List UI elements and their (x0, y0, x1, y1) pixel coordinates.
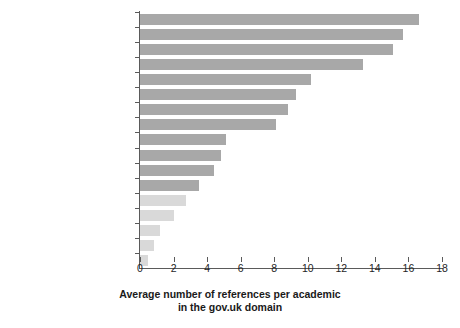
bar (140, 210, 174, 221)
bar (140, 14, 419, 25)
bar (140, 150, 221, 161)
y-axis-tick (135, 72, 140, 73)
bar-row: Sociology (140, 57, 442, 72)
bar-row: Comm & Media Studies (140, 102, 442, 117)
y-axis-tick (135, 148, 140, 149)
bar-row: Anthropology (140, 87, 442, 102)
y-axis-tick (135, 132, 140, 133)
y-axis-tick (135, 208, 140, 209)
bar (140, 119, 276, 130)
bar (140, 240, 154, 251)
bar (140, 104, 288, 115)
bar-row: Law (140, 148, 442, 163)
bar (140, 225, 160, 236)
bar-row: Social Policy (140, 12, 442, 27)
bar (140, 195, 186, 206)
bar (140, 165, 214, 176)
y-axis-tick (135, 223, 140, 224)
y-axis-tick (135, 178, 140, 179)
x-axis-title-line-2: in the gov.uk domain (0, 301, 460, 314)
bar-row: Philosophy (140, 178, 442, 193)
bar-row: History (140, 117, 442, 132)
bar-row: Medicine (140, 193, 442, 208)
plot-area: Social PolicyGeographyEconomicsSociology… (140, 12, 442, 268)
y-axis-tick (135, 57, 140, 58)
bar-row: Political Science (140, 72, 442, 87)
bar-row: Engineering (140, 208, 442, 223)
bar-chart: Social PolicyGeographyEconomicsSociology… (0, 0, 460, 328)
y-axis-tick (135, 238, 140, 239)
bar-row: Business & Management (140, 163, 442, 178)
bar (140, 89, 296, 100)
y-axis-tick (135, 193, 140, 194)
bar-row: Psychology (140, 132, 442, 147)
y-axis-tick (135, 42, 140, 43)
bar-row: Chemistry (140, 223, 442, 238)
x-axis-title: Average number of references per academi… (0, 288, 460, 314)
bar (140, 134, 226, 145)
y-axis-tick (135, 102, 140, 103)
y-axis-tick (135, 117, 140, 118)
y-axis-tick (135, 87, 140, 88)
bar (140, 74, 311, 85)
y-axis-tick (135, 12, 140, 13)
bar (140, 180, 199, 191)
bar (140, 44, 393, 55)
bar (140, 59, 363, 70)
x-axis-tick-label: 18 (422, 262, 460, 274)
bar-row: Geography (140, 27, 442, 42)
y-axis-tick (135, 27, 140, 28)
bar-row: Economics (140, 42, 442, 57)
y-axis-tick (135, 253, 140, 254)
bar-row: Physics (140, 238, 442, 253)
x-axis-title-line-1: Average number of references per academi… (0, 288, 460, 301)
y-axis-tick (135, 163, 140, 164)
bar (140, 29, 403, 40)
